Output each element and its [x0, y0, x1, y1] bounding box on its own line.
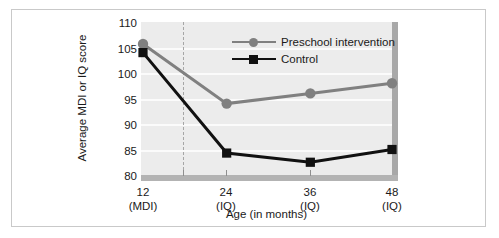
x-axis-bar	[141, 175, 398, 181]
legend-marker-square-icon	[232, 52, 276, 66]
x-axis-title: Age (in months)	[141, 208, 392, 220]
x-axis-tick-label: 12	[113, 185, 173, 199]
data-point-preschool-intervention	[305, 88, 315, 98]
y-axis-tick-label: 90	[107, 120, 137, 132]
legend-marker-circle-icon	[232, 35, 276, 49]
y-axis-tick-label: 80	[107, 171, 137, 183]
x-axis-tick	[310, 170, 311, 176]
data-point-preschool-intervention	[387, 78, 397, 88]
y-axis-tick-label: 110	[107, 18, 137, 30]
y-axis-tick-label: 105	[107, 44, 137, 56]
y-axis-tick-label: 100	[107, 69, 137, 81]
data-point-control	[138, 48, 147, 57]
legend: Preschool intervention Control	[232, 33, 382, 67]
x-axis-tick	[226, 170, 227, 176]
data-point-control	[387, 145, 396, 154]
y-axis-tick-label: 95	[107, 95, 137, 107]
legend-label: Preschool intervention	[281, 36, 395, 48]
y-axis-title: Average MDI or IQ score	[76, 35, 88, 162]
data-point-preschool-intervention	[138, 39, 148, 49]
legend-item-preschool-intervention: Preschool intervention	[232, 33, 382, 50]
y-axis-tick-label: 85	[107, 146, 137, 158]
x-axis-tick	[183, 170, 184, 176]
figure: Preschool intervention Control 110 105 1…	[0, 0, 499, 238]
x-axis-tick-label: 48	[362, 185, 422, 199]
data-point-control	[222, 148, 231, 157]
x-axis-tick-label: 24	[196, 185, 256, 199]
x-axis-tick-label: 36	[280, 185, 340, 199]
legend-label: Control	[281, 53, 318, 65]
data-point-preschool-intervention	[221, 98, 231, 108]
legend-item-control: Control	[232, 50, 382, 67]
data-point-control	[306, 158, 315, 167]
